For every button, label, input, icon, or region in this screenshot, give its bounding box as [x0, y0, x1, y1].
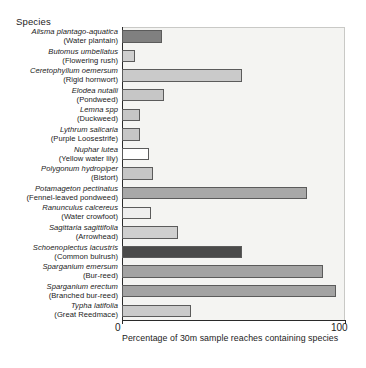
bar-row: Lythrum salicaria(Purple Loosestrife): [0, 125, 366, 145]
x-axis-tick-label-max: 100: [331, 322, 348, 333]
species-common-name: (Rigid hornwort): [6, 75, 118, 84]
bar: [122, 187, 307, 199]
bar-row: Alisma plantago-aquatica(Water plantain): [0, 27, 366, 47]
bar-row-label: Schoenoplectus lacustris(Common bulrush): [6, 243, 118, 261]
bar-row-label: Ranunculus calcereus(Water crowfoot): [6, 203, 118, 221]
species-common-name: (Bur-reed): [6, 271, 118, 280]
species-common-name: (Bistort): [6, 173, 118, 182]
bar-row: Nuphar lutea(Yellow water lily): [0, 145, 366, 165]
bar-row-label: Ceretophyllum oemersum(Rigid hornwort): [6, 66, 118, 84]
species-common-name: (Branched bur-reed): [6, 291, 118, 300]
species-common-name: (Purple Loosestrife): [6, 134, 118, 143]
bar: [122, 30, 162, 42]
bar: [122, 246, 242, 258]
bar: [122, 109, 140, 121]
species-common-name: (Arrowhead): [6, 232, 118, 241]
bar-row-label: Polygonum hydropiper(Bistort): [6, 164, 118, 182]
species-scientific-name: Nuphar lutea: [6, 145, 118, 154]
species-scientific-name: Elodea nutalli: [6, 86, 118, 95]
species-common-name: (Great Reedmace): [6, 310, 118, 319]
bar-row: Schoenoplectus lacustris(Common bulrush): [0, 243, 366, 263]
species-common-name: (Water plantain): [6, 36, 118, 45]
bar-row-label: Lemna spp(Duckweed): [6, 105, 118, 123]
bar-row: Potamageton pectinatus(Fennel-leaved pon…: [0, 184, 366, 204]
bar: [122, 89, 164, 101]
bar-row-label: Potamageton pectinatus(Fennel-leaved pon…: [6, 184, 118, 202]
species-scientific-name: Sagittaria sagittifolia: [6, 223, 118, 232]
species-scientific-name: Ranunculus calcereus: [6, 203, 118, 212]
bar-row: Elodea nutalli(Pondweed): [0, 86, 366, 106]
bar-row: Sparganium emersum(Bur-reed): [0, 262, 366, 282]
species-scientific-name: Typha latifolia: [6, 301, 118, 310]
bar-row-label: Lythrum salicaria(Purple Loosestrife): [6, 125, 118, 143]
x-axis-tick-label-min: 0: [115, 322, 121, 333]
y-axis-title: Species: [16, 16, 51, 27]
bar-row: Polygonum hydropiper(Bistort): [0, 164, 366, 184]
bar-row-label: Sagittaria sagittifolia(Arrowhead): [6, 223, 118, 241]
species-common-name: (Flowering rush): [6, 56, 118, 65]
bar-row-label: Typha latifolia(Great Reedmace): [6, 301, 118, 319]
bar-row: Ranunculus calcereus(Water crowfoot): [0, 203, 366, 223]
species-scientific-name: Sparganium emersum: [6, 262, 118, 271]
species-common-name: (Yellow water lily): [6, 154, 118, 163]
species-scientific-name: Schoenoplectus lacustris: [6, 243, 118, 252]
species-scientific-name: Potamageton pectinatus: [6, 184, 118, 193]
bar-row: Lemna spp(Duckweed): [0, 105, 366, 125]
bar-row-label: Sparganium erectum(Branched bur-reed): [6, 282, 118, 300]
bar: [122, 148, 149, 160]
x-axis-caption: Percentage of 30m sample reaches contain…: [122, 333, 362, 343]
bar-row-label: Sparganium emersum(Bur-reed): [6, 262, 118, 280]
species-scientific-name: Butomus umbellatus: [6, 47, 118, 56]
bar-rows: Alisma plantago-aquatica(Water plantain)…: [0, 27, 366, 321]
bar: [122, 69, 242, 81]
species-scientific-name: Polygonum hydropiper: [6, 164, 118, 173]
bar: [122, 285, 336, 297]
bar-row: Butomus umbellatus(Flowering rush): [0, 47, 366, 67]
species-common-name: (Duckweed): [6, 114, 118, 123]
bar-row: Ceretophyllum oemersum(Rigid hornwort): [0, 66, 366, 86]
bar-row-label: Alisma plantago-aquatica(Water plantain): [6, 27, 118, 45]
species-scientific-name: Lemna spp: [6, 105, 118, 114]
bar: [122, 128, 140, 140]
bar-row: Sagittaria sagittifolia(Arrowhead): [0, 223, 366, 243]
species-common-name: (Water crowfoot): [6, 212, 118, 221]
bar: [122, 265, 323, 277]
species-common-name: (Fennel-leaved pondweed): [6, 193, 118, 202]
bar: [122, 50, 135, 62]
species-scientific-name: Alisma plantago-aquatica: [6, 27, 118, 36]
bar-row: Sparganium erectum(Branched bur-reed): [0, 282, 366, 302]
species-common-name: (Common bulrush): [6, 252, 118, 261]
bar-row-label: Nuphar lutea(Yellow water lily): [6, 145, 118, 163]
bar-row-label: Butomus umbellatus(Flowering rush): [6, 47, 118, 65]
bar: [122, 207, 151, 219]
bar-row-label: Elodea nutalli(Pondweed): [6, 86, 118, 104]
species-scientific-name: Ceretophyllum oemersum: [6, 66, 118, 75]
bar: [122, 226, 178, 238]
bar-row: Typha latifolia(Great Reedmace): [0, 301, 366, 321]
chart-figure: Species Alisma plantago-aquatica(Water p…: [0, 0, 366, 368]
species-common-name: (Pondweed): [6, 95, 118, 104]
bar: [122, 305, 191, 317]
bar: [122, 167, 153, 179]
species-scientific-name: Sparganium erectum: [6, 282, 118, 291]
species-scientific-name: Lythrum salicaria: [6, 125, 118, 134]
